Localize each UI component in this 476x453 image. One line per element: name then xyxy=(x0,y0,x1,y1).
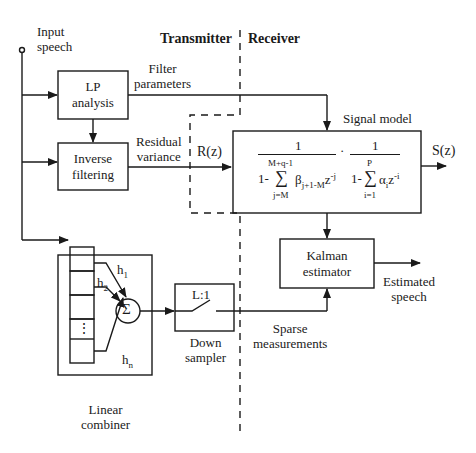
inverse-filtering-label: Inverse filtering xyxy=(58,143,128,190)
weight-hn: hn xyxy=(122,352,133,373)
sparse-measurements-line2: measurements xyxy=(253,336,327,351)
r-z-label: R(z) xyxy=(197,144,222,159)
beta-symbol: β xyxy=(295,172,302,187)
down-sampler-label: Down sampler xyxy=(185,335,226,365)
beta-subscript: j+1-M xyxy=(302,180,325,190)
kalman-line2: estimator xyxy=(303,264,351,280)
down-sampler-line2: sampler xyxy=(185,350,226,365)
z1-exponent: -j xyxy=(330,171,336,181)
weight-h1: h1 xyxy=(117,262,128,283)
s-z-label: S(z) xyxy=(432,143,455,158)
lp-analysis-label: LP analysis xyxy=(58,71,128,119)
tx-rx-boundary xyxy=(190,30,240,432)
filter-parameters-line2: parameters xyxy=(134,76,191,91)
input-speech-line1: Input xyxy=(37,24,72,39)
sum-symbol: Σ xyxy=(122,302,131,317)
z2-exponent: -i xyxy=(394,171,400,181)
estimated-speech-label: Estimated speech xyxy=(383,274,435,304)
den1-term: βj+1-Mz-j xyxy=(295,171,336,190)
sum1-lower-limit: j=M xyxy=(273,190,289,200)
kalman-estimator-label: Kalman estimator xyxy=(280,239,374,288)
input-speech-line2: speech xyxy=(37,39,72,54)
linear-combiner-line1: Linear xyxy=(81,402,130,417)
signal-model-title: Signal model xyxy=(343,111,412,126)
alpha-symbol: α xyxy=(379,172,386,187)
estimated-speech-line2: speech xyxy=(383,289,435,304)
down-sampler-ratio: L:1 xyxy=(192,287,210,302)
weight-h2: h2 xyxy=(97,275,108,296)
lp-analysis-line1: LP xyxy=(85,79,100,95)
weight-h2-sub: 2 xyxy=(104,283,109,293)
kalman-line1: Kalman xyxy=(306,248,347,264)
diagram-lines xyxy=(0,0,476,453)
sparse-measurements-line1: Sparse xyxy=(253,321,327,336)
numerator-1: 1 xyxy=(295,138,302,154)
den2-term: αiz-i xyxy=(379,171,400,190)
fraction-bar-2 xyxy=(350,154,400,155)
estimated-speech-line1: Estimated xyxy=(383,274,435,289)
residual-variance-label: Residual variance xyxy=(136,134,182,164)
weight-hn-sub: n xyxy=(129,360,134,370)
sum2-lower-limit: i=1 xyxy=(364,190,376,200)
filter-parameters-label: Filter parameters xyxy=(134,61,191,91)
residual-variance-line2: variance xyxy=(136,149,182,164)
input-speech-label: Input speech xyxy=(37,24,72,54)
residual-variance-line1: Residual xyxy=(136,134,182,149)
linear-combiner-box xyxy=(58,255,152,375)
linear-combiner-line2: combiner xyxy=(81,417,130,432)
receiver-label: Receiver xyxy=(248,31,300,46)
fraction-bar-1 xyxy=(258,154,336,155)
den1-prefix: 1- xyxy=(258,171,269,187)
weight-h1-sub: 1 xyxy=(124,270,129,280)
transmitter-label: Transmitter xyxy=(160,31,232,46)
sparse-measurements-label: Sparse measurements xyxy=(253,321,327,351)
numerator-2: 1 xyxy=(372,138,379,154)
inverse-filtering-line2: filtering xyxy=(72,167,114,183)
linear-combiner-label: Linear combiner xyxy=(81,402,130,432)
filter-parameters-line1: Filter xyxy=(134,61,191,76)
product-dot: · xyxy=(340,143,344,159)
down-sampler-line1: Down xyxy=(185,335,226,350)
inverse-filtering-line1: Inverse xyxy=(74,151,112,167)
sum2-symbol: ∑ xyxy=(364,167,377,188)
sum1-symbol: ∑ xyxy=(275,167,288,188)
lp-analysis-line2: analysis xyxy=(72,95,114,111)
den2-prefix: 1- xyxy=(351,171,362,187)
signal-model-formula: 1 1 · M+q-1 1- ∑ j=M βj+1-Mz-j P 1- ∑ i=… xyxy=(233,131,421,213)
delay-line-ellipsis: ⋮ xyxy=(77,321,91,336)
input-terminal xyxy=(20,48,25,53)
